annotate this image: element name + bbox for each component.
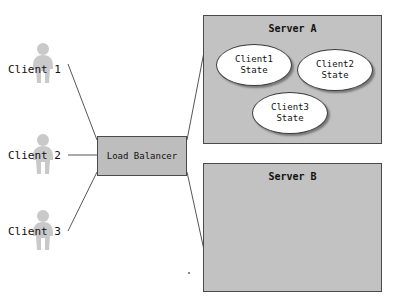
state-ellipse-client1: Client1 State	[216, 44, 292, 86]
state-ellipse-client1-line2: State	[240, 65, 267, 76]
load-balancer-label: Load Balancer	[107, 151, 177, 161]
server-a-title: Server A	[204, 23, 381, 34]
state-ellipse-client3-line2: State	[276, 113, 303, 124]
state-ellipse-client3-line1: Client3	[271, 102, 309, 113]
connector-client3-to-load-balancer	[68, 172, 97, 231]
connector-load-balancer-to-server-a	[187, 52, 204, 140]
server-a-node: Server A Client1 State Client2 State Cli…	[203, 15, 382, 144]
server-b-title: Server B	[204, 171, 381, 182]
diagram-canvas: Client 1 Client 2 Client 3 Load Balancer…	[0, 0, 399, 307]
state-ellipse-client2-line1: Client2	[316, 59, 354, 70]
connector-load-balancer-to-server-b	[187, 172, 204, 250]
client-label-3: Client 3	[8, 225, 61, 238]
load-balancer-node: Load Balancer	[97, 136, 187, 176]
connector-client1-to-load-balancer	[68, 64, 97, 140]
state-ellipse-client1-line1: Client1	[235, 54, 273, 65]
state-ellipse-client2: Client2 State	[297, 49, 373, 91]
client-label-1: Client 1	[8, 63, 61, 76]
image-speck	[188, 272, 190, 274]
client-label-2: Client 2	[8, 149, 61, 162]
server-b-node: Server B	[203, 163, 382, 292]
state-ellipse-client3: Client3 State	[252, 92, 328, 134]
state-ellipse-client2-line2: State	[321, 70, 348, 81]
